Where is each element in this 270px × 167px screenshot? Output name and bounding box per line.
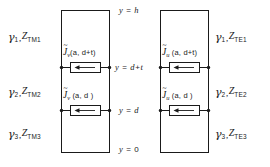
diagram-artwork: .ln { stroke: #1a1a1a; stroke-width: 1; … [0,0,270,167]
axis-label-y-0: y = 0 [119,145,139,154]
circuit-diagram: .ln { stroke: #1a1a1a; stroke-width: 1; … [0,0,270,167]
te-medium-label-2: γ2,ZTE2 [215,86,247,99]
tm-source-label-lower: ~Jv (a, d ) [63,91,93,101]
tm-source-label-upper: ~Jv(a, d+t) [63,48,96,58]
axis-label-y-h: y = h [119,6,139,15]
te-medium-label-3: γ3,ZTE3 [215,128,247,141]
te-medium-label-1: γ1,ZTE1 [215,31,247,44]
tm-medium-label-3: γ3,ZTM3 [8,128,41,141]
axis-label-y-d: y = d [119,106,139,115]
te-source-label-upper: ~Ju (a, d+t) [162,48,197,58]
axis-label-y-d-plus-t: y = d+t [115,63,143,72]
te-network-outline [161,11,209,153]
tm-medium-label-1: γ1,ZTM1 [8,31,41,44]
tm-medium-label-2: γ2,ZTM2 [8,86,41,99]
te-source-label-lower: ~Ju (a, d ) [162,91,193,101]
tm-network-outline [62,11,110,153]
